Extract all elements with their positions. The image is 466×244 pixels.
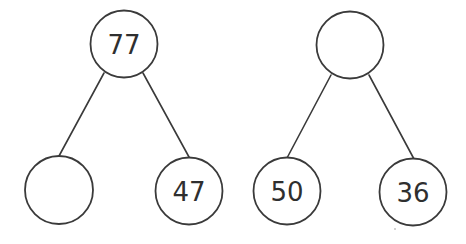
edge-top-to-left xyxy=(59,73,104,156)
stray-dot xyxy=(394,228,396,230)
edge-top-to-right xyxy=(369,75,414,159)
node-circle-empty[interactable] xyxy=(317,12,384,79)
node-part-right: 36 xyxy=(380,159,447,226)
node-part-left: 50 xyxy=(254,158,321,225)
node-circle-empty[interactable] xyxy=(25,156,93,224)
node-value: 77 xyxy=(107,30,140,60)
node-whole: 77 xyxy=(91,11,158,78)
node-value: 50 xyxy=(270,177,303,207)
node-value: 36 xyxy=(396,178,429,208)
left-number-bond: 77 47 xyxy=(25,11,223,225)
number-bond-diagram: 77 47 50 36 xyxy=(0,0,466,244)
edge-top-to-right xyxy=(143,73,189,157)
edge-top-to-left xyxy=(287,75,331,158)
node-value: 47 xyxy=(172,177,205,207)
node-part-left[interactable] xyxy=(25,156,93,224)
node-whole[interactable] xyxy=(317,12,384,79)
node-part-right: 47 xyxy=(156,158,223,225)
right-number-bond: 50 36 xyxy=(254,12,447,226)
